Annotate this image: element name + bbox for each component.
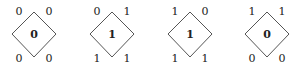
center-value: 0 [28, 29, 40, 40]
corner-top-left: 0 [92, 6, 102, 17]
center-value: 1 [184, 29, 196, 40]
corner-top-right: 1 [122, 6, 132, 17]
center-value: 1 [106, 29, 118, 40]
center-value: 0 [261, 29, 273, 40]
corner-top-left: 0 [14, 6, 24, 17]
corner-bottom-right: 0 [44, 53, 54, 64]
corner-bottom-left: 0 [14, 53, 24, 64]
corner-bottom-left: 1 [92, 53, 102, 64]
cell-4: 1 1 0 0 0 [233, 0, 302, 67]
corner-bottom-right: 1 [200, 53, 210, 64]
corner-top-right: 0 [44, 6, 54, 17]
corner-bottom-right: 0 [277, 53, 287, 64]
cell-3: 1 0 1 1 1 [156, 0, 232, 67]
corner-top-left: 1 [170, 6, 180, 17]
corner-top-right: 0 [200, 6, 210, 17]
corner-bottom-left: 1 [170, 53, 180, 64]
corner-top-right: 1 [277, 6, 287, 17]
corner-bottom-left: 0 [247, 53, 257, 64]
corner-top-left: 1 [247, 6, 257, 17]
cell-1: 0 0 0 0 0 [0, 0, 76, 67]
cell-2: 0 1 1 1 1 [78, 0, 154, 67]
corner-bottom-right: 1 [122, 53, 132, 64]
